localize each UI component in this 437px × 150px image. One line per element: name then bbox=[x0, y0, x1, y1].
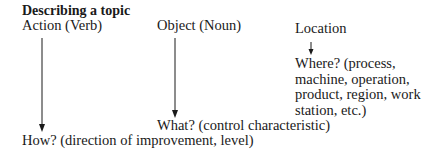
arrows-layer bbox=[0, 0, 437, 150]
object-arrow-icon bbox=[172, 38, 178, 118]
action-arrow-icon bbox=[39, 38, 45, 132]
location-arrow-icon bbox=[309, 42, 314, 55]
